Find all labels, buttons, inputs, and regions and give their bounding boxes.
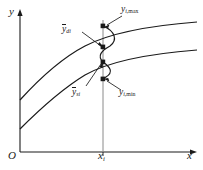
y-si-base: y bbox=[72, 88, 76, 98]
lower-trend-curve bbox=[20, 50, 197, 129]
y-si-sub: si bbox=[76, 91, 80, 97]
y-i-max-point bbox=[101, 24, 106, 29]
y-si-mean-label: ysi bbox=[72, 88, 80, 98]
y-di-mean-label: ydi bbox=[62, 25, 71, 35]
y-min-sub2: min bbox=[126, 91, 135, 97]
x-axis-label: x bbox=[187, 150, 192, 161]
y-min-label: yi,min bbox=[119, 88, 135, 98]
x-tick-sub: i bbox=[103, 155, 105, 162]
origin-label: O bbox=[8, 150, 16, 161]
y-max-sub2: max bbox=[128, 8, 138, 14]
y-axis bbox=[17, 9, 22, 152]
figure-canvas bbox=[0, 0, 203, 170]
upper-trend-curve bbox=[20, 22, 197, 100]
y-di-sub: di bbox=[66, 28, 71, 34]
y-di-base: y bbox=[62, 25, 66, 35]
leader-y-max bbox=[103, 16, 122, 28]
y-max-label: yi,max bbox=[121, 5, 138, 15]
distribution-wave-curve bbox=[100, 26, 114, 80]
x-axis bbox=[20, 149, 197, 154]
x-tick-label: xi bbox=[98, 150, 105, 163]
y-axis-label: y bbox=[9, 6, 14, 17]
diagram-svg bbox=[0, 0, 203, 170]
